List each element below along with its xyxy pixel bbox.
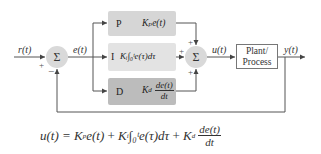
signal-y-label: y(t) — [284, 45, 298, 55]
d-block-expression: Kd de(t) dt — [142, 80, 174, 101]
formula-term3-numerator: de(t) — [198, 123, 221, 136]
d-block-denominator: dt — [161, 91, 168, 101]
sum2-plus-sign-top: + — [188, 38, 193, 47]
signal-r-label: r(t) — [18, 45, 31, 55]
p-block-letter: P — [116, 19, 122, 29]
p-block-expression: Kₚe(t) — [142, 19, 165, 29]
d-block-sub: d — [148, 87, 152, 94]
sum1-plus-sign: + — [39, 61, 44, 70]
summing-junction-2: Σ — [185, 46, 207, 68]
plant-label-line2: Process — [237, 57, 277, 68]
formula-term3-coef: K — [183, 128, 192, 144]
formula-term1-coef: K — [74, 128, 83, 144]
signal-u-label: u(t) — [212, 45, 226, 55]
formula-term2-coef: K — [118, 128, 127, 144]
sum2-plus-sign-left: + — [179, 47, 184, 56]
d-block: D Kd de(t) dt — [108, 78, 176, 105]
i-block-expression: Kᵢ∫₀ᵗe(τ)dτ — [120, 52, 155, 61]
sigma-icon: Σ — [54, 50, 61, 65]
formula-lhs: u(t) = — [40, 128, 71, 144]
formula-term3-sub: d — [192, 132, 196, 140]
p-block: P Kₚe(t) — [108, 11, 176, 36]
sigma-icon: Σ — [193, 50, 200, 65]
plant-process-block: Plant/ Process — [236, 44, 278, 69]
sum1-minus-sign: − — [48, 66, 54, 77]
formula-term2-rest: ∫₀ᵗe(τ)dτ — [129, 128, 170, 144]
i-block-letter: I — [111, 52, 114, 62]
signal-e-label: e(t) — [73, 45, 87, 55]
formula-plus-1: + — [108, 128, 115, 144]
i-block: I Kᵢ∫₀ᵗe(τ)dτ — [108, 43, 176, 71]
plant-label-line1: Plant/ — [237, 46, 277, 57]
formula-term1-rest: e(t) — [86, 128, 104, 144]
d-block-numerator: de(t) — [155, 80, 174, 91]
sum2-plus-sign-bottom: + — [188, 68, 193, 77]
formula-plus-2: + — [172, 128, 179, 144]
d-block-letter: D — [116, 87, 123, 97]
formula-term3-denominator: dt — [205, 136, 214, 148]
pid-control-law-formula: u(t) = Kpe(t) + Ki∫₀ᵗe(τ)dτ + Kd de(t) d… — [40, 123, 221, 148]
